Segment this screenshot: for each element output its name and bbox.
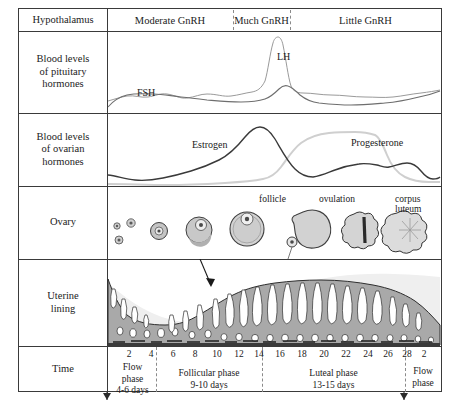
fsh-label-text: FSH [137,87,155,98]
day-tick-24: 24 [363,349,373,359]
day-tick-6: 6 [171,349,176,359]
phase-flow-start-line1: Flow [109,362,156,374]
diagram-table: Hypothalamus Moderate GnRH Much GnRH Lit… [18,8,442,392]
menstrual-cycle-diagram: Hypothalamus Moderate GnRH Much GnRH Lit… [0,0,460,401]
estrogen-label: Estrogen [192,139,228,150]
day-tick-26: 26 [383,349,393,359]
row-label-uterine: Uterine lining [19,259,107,346]
ovary-label-ovulation: ovulation [319,194,355,204]
day-tick-22: 22 [341,349,351,359]
day-tick-8: 8 [193,349,198,359]
row-label-ovary: Ovary [19,186,107,259]
gnrh-segment-little: Little GnRH [290,9,441,31]
day-tick-18: 18 [297,349,307,359]
ovulation-leader-line [288,247,292,259]
progesterone-label-text: Progesterone [351,137,403,148]
row-label-uterine-line1: Uterine [47,290,79,303]
row-label-time-text: Time [52,363,74,376]
row-label-hypothalamus-text: Hypothalamus [32,14,93,27]
lh-curve [108,37,440,101]
uterine-lining-illustration [107,259,441,346]
pituitary-hormone-plot [107,31,441,113]
fsh-curve [108,86,440,107]
ovary-label-follicle-text: follicle [259,194,286,204]
day-tick-2b: 2 [422,349,427,359]
ovary-stage-mature-follicle [230,212,264,246]
phase-follicular: Follicular phase 9-10 days [156,368,262,391]
day-tick-10: 10 [212,349,222,359]
row-label-ovarian-line3: hormones [37,156,90,169]
ovary-label-corpus-luteum: corpus luteum [395,194,441,214]
gnrh-much-label: Much GnRH [234,15,289,26]
day-tick-16: 16 [275,349,285,359]
ovary-label-corpus-luteum-text: corpus luteum [395,194,421,214]
fsh-label: FSH [137,87,155,98]
ovary-stage-ovulation [287,210,331,259]
row-label-pituitary: Blood levels of pituitary hormones [19,31,107,113]
ovary-stage-growing-follicle [186,217,212,247]
ovary-stage-corpus-luteum [381,211,427,254]
ovary-stage-primordial-follicles [114,219,135,244]
row-label-ovary-text: Ovary [50,216,76,229]
ovary-stage-primary-follicle [151,223,168,240]
gnrh-little-label: Little GnRH [339,15,392,26]
phase-flow-start-line2: phase [109,374,156,386]
lh-label: LH [277,51,290,62]
row-label-uterine-line2: lining [47,303,79,316]
row-label-pituitary-line3: hormones [37,78,90,91]
estrogen-label-text: Estrogen [192,139,228,150]
day-tick-4: 4 [149,349,154,359]
progesterone-label: Progesterone [351,137,403,148]
phase-flow-end-line2: phase [405,378,441,390]
phase-flow-end: Flow phase [405,366,441,389]
ovary-label-ovulation-text: ovulation [319,194,355,204]
row-label-ovarian-line1: Blood levels [37,131,90,144]
day-tick-2: 2 [127,349,132,359]
phase-flow-end-line1: Flow [405,366,441,378]
myometrium-band [108,343,440,346]
day-tick-28: 28 [402,349,412,359]
day-tick-14: 14 [254,349,264,359]
gnrh-moderate-label: Moderate GnRH [135,15,205,26]
ovarian-hormone-plot [107,113,441,186]
row-label-ovarian: Blood levels of ovarian hormones [19,113,107,186]
cycle-boundary-markers [0,390,460,401]
row-label-time: Time [19,346,107,392]
row-label-pituitary-line2: of pituitary [37,66,90,79]
ovary-stage-corpus-luteum-early [341,212,378,249]
day-tick-12: 12 [234,349,244,359]
day-tick-20: 20 [319,349,329,359]
ovulation-arrow [200,259,215,287]
phase-luteal-name: Luteal phase [262,368,405,380]
estrogen-curve [108,127,440,180]
row-label-pituitary-line1: Blood levels [37,53,90,66]
phase-luteal: Luteal phase 13-15 days [262,368,405,391]
row-label-ovarian-line2: of ovarian [37,143,90,156]
phase-follicular-name: Follicular phase [156,368,262,380]
ovary-label-follicle: follicle [259,194,286,204]
row-label-hypothalamus: Hypothalamus [19,9,107,31]
gnrh-segment-moderate: Moderate GnRH [107,9,233,31]
lh-label-text: LH [277,51,290,62]
gnrh-segment-much: Much GnRH [233,9,290,31]
